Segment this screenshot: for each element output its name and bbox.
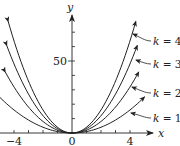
- annotation-pointers: [131, 34, 151, 118]
- pointer-k1: [131, 113, 151, 118]
- y-tick-label-50: 50: [53, 55, 67, 68]
- label-k3-eq: = 3: [159, 58, 180, 70]
- y-axis-ticks: [68, 32, 75, 118]
- label-k1-eq: = 1: [159, 112, 180, 124]
- x-tick-label-4: 4: [127, 135, 134, 146]
- pointer-k2: [132, 87, 151, 93]
- label-k2: k = 2: [153, 87, 180, 99]
- label-k3: k = 3: [153, 58, 180, 70]
- parabola-family-chart: −4 0 4 x 50 y k = 4 k = 3 k = 2 k = 1: [0, 0, 180, 146]
- pointer-k3: [136, 60, 151, 64]
- annotation-labels: k = 4 k = 3 k = 2 k = 1: [153, 35, 180, 124]
- pointer-k4: [133, 34, 151, 41]
- y-axis-label: y: [66, 1, 74, 14]
- label-k2-eq: = 2: [159, 87, 180, 99]
- label-k4: k = 4: [153, 35, 180, 47]
- x-tick-label-0: 0: [69, 135, 76, 146]
- label-k4-eq: = 4: [159, 35, 180, 47]
- label-k1: k = 1: [153, 112, 180, 124]
- x-tick-label-neg4: −4: [6, 135, 22, 146]
- y-axis: 50 y: [53, 1, 75, 133]
- x-axis-label: x: [158, 127, 165, 140]
